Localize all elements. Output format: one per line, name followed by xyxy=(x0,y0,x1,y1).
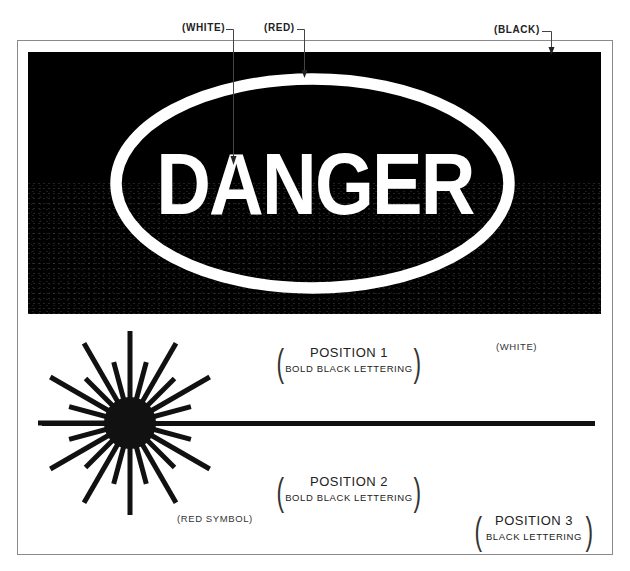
symbol-color-label: (RED SYMBOL) xyxy=(177,513,253,524)
position-2-block: ( POSITION 2 BOLD BLACK LETTERING ) xyxy=(278,474,420,503)
open-paren: ( xyxy=(475,511,483,551)
callout-white-label: (WHITE) xyxy=(182,22,225,33)
danger-signal-word: DANGER xyxy=(69,140,562,228)
position-1-block: ( POSITION 1 BOLD BLACK LETTERING ) xyxy=(278,345,420,374)
danger-header-panel: DANGER xyxy=(28,52,601,314)
close-paren: ) xyxy=(414,343,422,383)
open-paren: ( xyxy=(277,472,285,512)
callout-red-label: (RED) xyxy=(264,22,295,33)
open-paren: ( xyxy=(277,343,285,383)
position-2-title: POSITION 2 xyxy=(278,474,420,489)
position-3-title: POSITION 3 xyxy=(478,513,590,528)
background-color-label: (WHITE) xyxy=(496,341,537,352)
position-2-subtitle: BOLD BLACK LETTERING xyxy=(278,492,420,503)
position-3-block: ( POSITION 3 BLACK LETTERING ) xyxy=(478,513,590,542)
callout-black-label: (BLACK) xyxy=(494,24,540,35)
position-1-title: POSITION 1 xyxy=(278,345,420,360)
close-paren: ) xyxy=(414,472,422,512)
position-3-subtitle: BLACK LETTERING xyxy=(478,531,590,542)
position-1-subtitle: BOLD BLACK LETTERING xyxy=(278,363,420,374)
close-paren: ) xyxy=(586,511,594,551)
